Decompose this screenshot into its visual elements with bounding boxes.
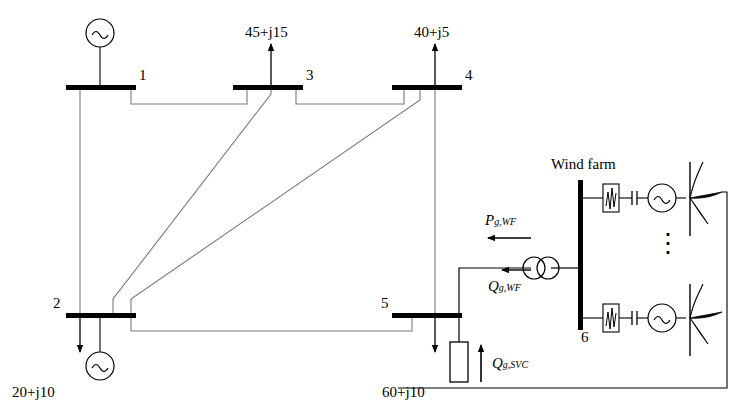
bus-bar-3 [233, 85, 303, 90]
svc-branch [450, 318, 481, 382]
turbine-continuation-dots: ⋮ [655, 240, 681, 247]
bus-label-1: 1 [139, 68, 147, 83]
load-label-bus5: 60+j10 [382, 385, 425, 400]
wind-farm-tie [459, 238, 578, 313]
bus-bar-1 [66, 85, 136, 90]
bus-label-2: 2 [53, 296, 61, 311]
gen-1-symbol [86, 19, 114, 47]
p-g-wf-subscript: g,WF [494, 216, 516, 227]
line-1-3 [131, 90, 247, 104]
wt2-blade-upper [690, 284, 703, 318]
bus-label-6: 6 [581, 330, 589, 345]
line-3-4 [296, 90, 404, 104]
q-g-svc-symbol: Q [492, 355, 503, 371]
wt2-generator [648, 304, 676, 332]
wind-farm-boundary [398, 192, 727, 388]
bus-label-3: 3 [306, 68, 314, 83]
wind-farm-boundary-path [398, 192, 727, 388]
svc-symbol [450, 342, 468, 382]
load-label-bus3: 45+j15 [245, 25, 288, 40]
line-2-5 [131, 318, 412, 331]
wt1-blade-upper [690, 162, 703, 198]
wt2-blade-right [690, 312, 722, 318]
load-label-bus4: 40+j5 [414, 25, 449, 40]
q-g-svc-label: Qg,SVC [492, 355, 528, 371]
wt2-blade-lower [690, 318, 708, 344]
q-g-wf-symbol: Q [488, 278, 499, 294]
q-g-wf-subscript: g,WF [499, 282, 521, 293]
load-label-bus2: 20+j10 [12, 385, 55, 400]
line-2-3 [113, 90, 271, 313]
line-2-4 [131, 90, 420, 313]
bus-bar-5 [392, 313, 462, 318]
p-g-wf-symbol: P [485, 212, 494, 228]
wind-turbine-unit-top [583, 162, 722, 236]
bus-label-4: 4 [465, 68, 473, 83]
q-g-wf-label: Qg,WF [488, 278, 521, 294]
diagram-vector-layer [0, 0, 734, 414]
bus-bar-4 [392, 85, 462, 90]
q-g-svc-subscript: g,SVC [503, 359, 528, 370]
bus-bar-2 [66, 313, 136, 318]
bus-bar-6 [578, 180, 583, 330]
gen-2-symbol [86, 352, 114, 380]
p-g-wf-label: Pg,WF [485, 212, 516, 228]
wt1-blade-lower [690, 198, 708, 224]
wt1-blade-right [690, 192, 722, 198]
bus-label-5: 5 [381, 296, 389, 311]
wind-farm-title: Wind farm [551, 157, 616, 172]
wind-turbine-unit-bottom [583, 284, 722, 356]
power-system-diagram: 1 3 4 2 5 6 45+j15 40+j5 20+j10 60+j10 W… [0, 0, 734, 414]
wt1-generator [648, 184, 676, 212]
generators [86, 19, 114, 380]
